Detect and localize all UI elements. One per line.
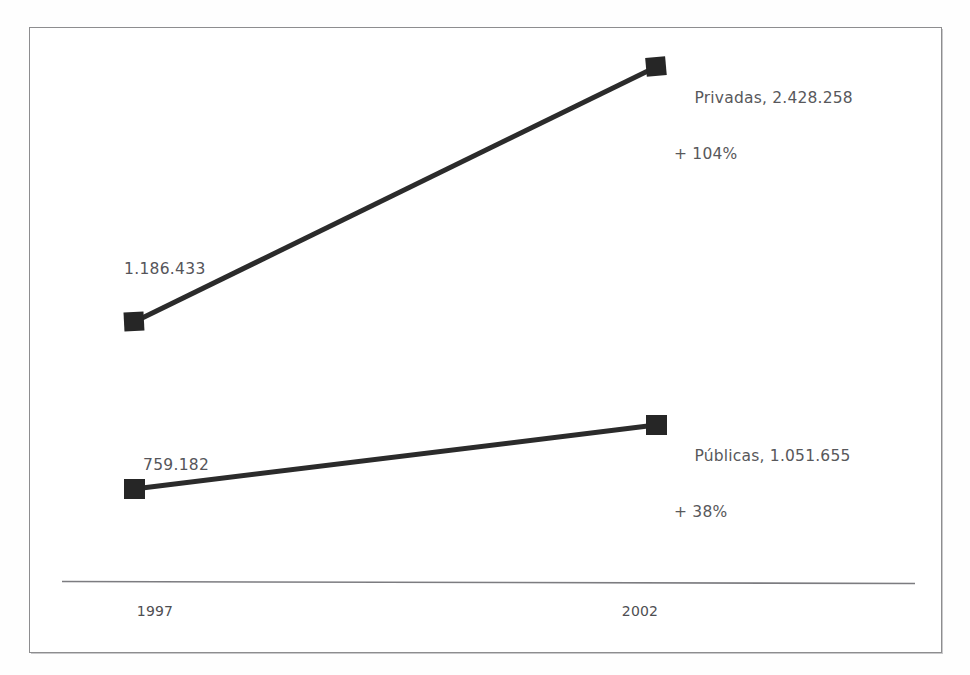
series-label-publicas: Públicas, 1.051.655 + 38% <box>674 414 851 582</box>
series-label-privadas-text: Privadas, 2.428.258 <box>695 89 853 107</box>
data-point-privadas-1997 <box>123 311 144 331</box>
x-tick-label-2002: 2002 <box>600 601 680 621</box>
series-growth-privadas: + 104% <box>674 140 853 168</box>
series-label-publicas-text: Públicas, 1.051.655 <box>695 447 851 465</box>
data-point-privadas-2002 <box>645 56 667 77</box>
value-label-privadas-1997: 1.186.433 <box>124 259 206 279</box>
series-label-privadas: Privadas, 2.428.258 + 104% <box>674 56 853 224</box>
x-tick-label-1997: 1997 <box>115 601 195 621</box>
series-line-privadas <box>134 67 656 322</box>
series-growth-publicas: + 38% <box>674 498 851 526</box>
data-point-publicas-2002 <box>646 415 667 435</box>
data-point-publicas-1997 <box>124 479 145 499</box>
series-line-publicas <box>134 425 656 489</box>
value-label-publicas-1997: 759.182 <box>143 455 209 475</box>
chart-screenshot: Privadas, 2.428.258 + 104% Públicas, 1.0… <box>0 0 970 675</box>
